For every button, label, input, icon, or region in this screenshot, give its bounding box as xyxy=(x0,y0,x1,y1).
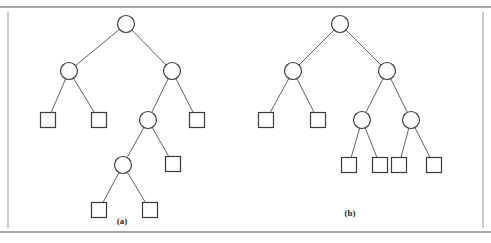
tree-leaf-node xyxy=(342,158,357,173)
tree-edge xyxy=(391,79,408,113)
tree-internal-node xyxy=(354,112,371,129)
tree-edge xyxy=(297,79,314,113)
tree-leaf-node xyxy=(373,158,388,173)
tree-edge xyxy=(127,127,144,157)
tree-edge xyxy=(299,30,334,65)
tree-internal-node xyxy=(285,63,302,80)
tree-leaf-node xyxy=(92,203,107,218)
tree-root-node xyxy=(118,16,135,33)
tree-internal-node xyxy=(403,112,420,129)
tree-edge xyxy=(401,128,409,157)
tree-edge xyxy=(365,128,377,158)
tree-leaf-node xyxy=(143,203,158,218)
tree-nodes xyxy=(41,16,442,218)
tree-edge xyxy=(152,127,169,156)
tree-leaf-node xyxy=(259,113,274,128)
tree-internal-node xyxy=(140,112,157,129)
tree-leaf-node xyxy=(427,158,442,173)
tree-internal-node xyxy=(61,63,78,80)
tree-edge xyxy=(270,78,289,112)
tree-leaf-node xyxy=(311,113,326,128)
tree-root-node xyxy=(332,16,349,33)
tree-internal-node xyxy=(379,63,396,80)
tree-edge xyxy=(346,30,381,65)
tree-leaf-node xyxy=(392,158,407,173)
figure-container: (a)(b) xyxy=(0,0,491,243)
tree-edges xyxy=(51,29,430,202)
tree-edge xyxy=(152,79,169,113)
tree-leaf-node xyxy=(41,113,56,128)
tree-edge xyxy=(127,172,145,202)
tree-edge xyxy=(73,78,94,112)
tree-internal-node xyxy=(115,157,132,174)
tree-internal-node xyxy=(164,63,181,80)
figure-caption-label: (a) xyxy=(117,216,128,226)
tree-edge xyxy=(415,128,430,158)
tree-edge xyxy=(76,29,120,65)
tree-diagram-svg: (a)(b) xyxy=(0,0,491,243)
tree-edge xyxy=(103,173,119,203)
tree-edge xyxy=(51,79,65,113)
tree-edge xyxy=(366,79,383,113)
tree-edge xyxy=(132,30,166,65)
tree-leaf-node xyxy=(92,113,107,128)
tree-edge xyxy=(351,128,359,157)
figure-caption-label: (b) xyxy=(345,208,356,218)
tree-edge xyxy=(176,79,193,113)
tree-leaf-node xyxy=(166,157,181,172)
tree-leaf-node xyxy=(190,113,205,128)
